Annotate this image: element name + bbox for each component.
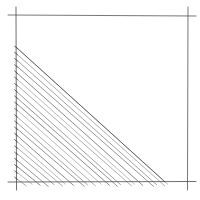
sketch-canvas bbox=[0, 0, 200, 200]
hatch-line bbox=[16, 147, 62, 186]
hatched-triangle bbox=[15, 46, 168, 186]
triangle-hypotenuse bbox=[16, 47, 165, 182]
hatch-line bbox=[16, 91, 121, 185]
square-frame bbox=[8, 7, 196, 190]
hatch-line bbox=[16, 66, 153, 187]
hatch-line bbox=[16, 122, 87, 185]
frame-top-line bbox=[8, 15, 196, 16]
hatch-line bbox=[16, 128, 84, 186]
frame-left-line bbox=[16, 7, 17, 190]
frame-right-line bbox=[188, 7, 189, 190]
hatch-line bbox=[16, 103, 109, 185]
